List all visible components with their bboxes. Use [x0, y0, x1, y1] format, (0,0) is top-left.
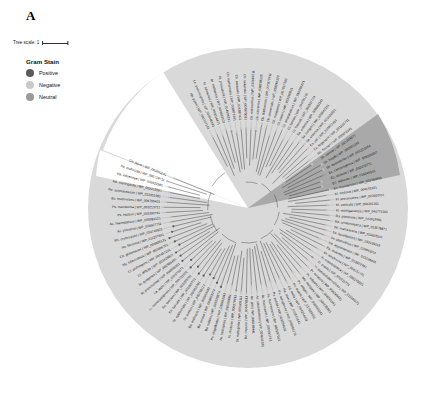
gram-stain-tip-marker [178, 244, 180, 246]
circular-phylogram: Cb. sakazakii | WP_004387401Cb. sakazaki… [0, 0, 436, 402]
gram-stain-tip-marker [171, 231, 173, 233]
leaf-label: Ps. mendocina | WP_003213711 [112, 205, 160, 209]
gram-stain-tip-marker [325, 224, 327, 226]
phylogenetic-tree-figure: A Tree scale: 1 Gram Stain Positive Nega… [0, 0, 436, 402]
gram-stain-tip-marker [319, 238, 321, 240]
gram-stain-tip-marker [325, 229, 327, 231]
gram-stain-tip-marker [175, 251, 177, 253]
leaf-label: Bu. cepacia | WP_006478511 [244, 296, 249, 340]
